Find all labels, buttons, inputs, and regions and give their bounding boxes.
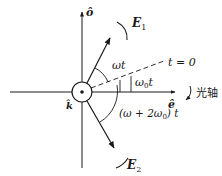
e1-vector: [87, 38, 110, 83]
e2-label: E2: [126, 158, 141, 174]
optic-axis-bracket-icon: [186, 86, 191, 100]
k-hat-label: k̂: [66, 99, 73, 111]
vertical-axis-label: ô: [86, 6, 93, 19]
polarization-diagram: ô ê k̂ E1 E2 ωt ω0t (ω + 2ω0) t t = 0 光轴: [0, 0, 222, 176]
e2-angle-label: (ω + 2ω0) t: [119, 107, 179, 121]
e1-rotation-arc-icon: [117, 22, 127, 40]
omega-t-label: ωt: [112, 59, 126, 72]
omega-t-angle-arc: [95, 68, 108, 82]
k-hat-dot-icon: [80, 90, 84, 94]
t0-label: t = 0: [168, 56, 196, 69]
e2-angle-arc: [100, 85, 118, 122]
e2-vector: [87, 101, 114, 148]
e1-label: E1: [131, 16, 146, 32]
t0-reference-line: [91, 61, 164, 88]
omega0-t-label: ω0t: [135, 76, 153, 90]
optic-axis-label: 光轴: [196, 86, 218, 100]
